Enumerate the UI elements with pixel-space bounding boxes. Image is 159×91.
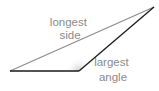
svg-text:longest side: longest side [50, 16, 90, 41]
largest-angle-shade [65, 57, 90, 71]
triangle-diagram: longest side largest angle [0, 0, 159, 91]
largest-angle-label-line1: largest [94, 56, 129, 68]
longest-side-label-line2: side [59, 29, 80, 41]
longest-side-label-line1: longest [50, 16, 88, 28]
largest-angle-label-line2: angle [99, 71, 127, 83]
svg-text:largest angle: largest angle [94, 56, 132, 83]
